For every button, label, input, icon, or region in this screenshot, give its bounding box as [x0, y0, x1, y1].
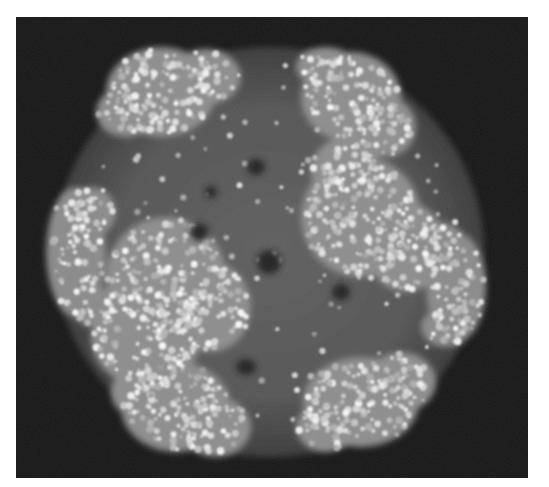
molecular-structure-figure — [16, 17, 528, 478]
molecule-render — [16, 17, 528, 478]
grain-overlay — [16, 17, 528, 478]
